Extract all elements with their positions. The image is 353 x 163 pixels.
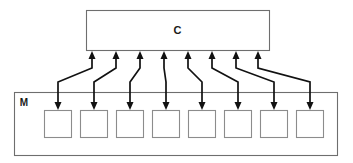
arrow-up-icon [233, 51, 240, 59]
arrow-up-icon [209, 51, 216, 59]
arrow-up-icon [255, 51, 262, 59]
arrow-up-icon [185, 51, 192, 59]
memory-label: M [20, 97, 28, 108]
memory-cell [297, 111, 324, 138]
memory-cell [189, 111, 216, 138]
memory-cell [81, 111, 108, 138]
arrow-up-icon [89, 51, 96, 59]
diagram-svg: MC [0, 0, 353, 163]
memory-cell [225, 111, 252, 138]
controller-label: C [174, 24, 182, 36]
diagram-canvas: MC [0, 0, 353, 163]
memory-cell [261, 111, 288, 138]
arrow-up-icon [137, 51, 144, 59]
arrow-up-icon [113, 51, 120, 59]
memory-cell [117, 111, 144, 138]
memory-cell [153, 111, 180, 138]
memory-cell [45, 111, 72, 138]
arrow-up-icon [161, 51, 168, 59]
